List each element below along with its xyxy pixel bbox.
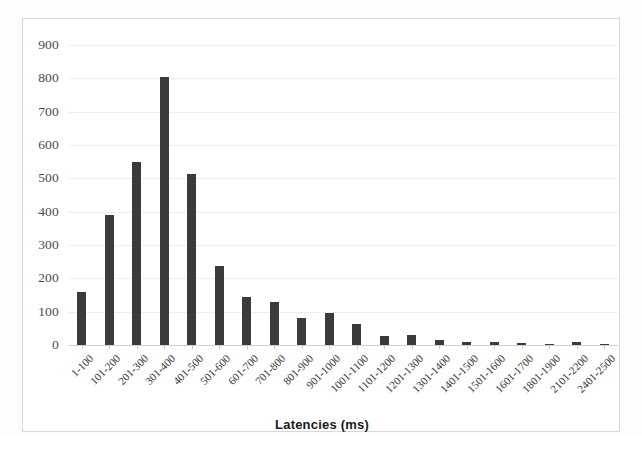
x-axis-tick-mark <box>577 345 578 349</box>
bar <box>380 336 389 345</box>
x-axis-tick-mark <box>164 345 165 349</box>
x-axis-tick-mark <box>137 345 138 349</box>
x-axis-tick-mark <box>384 345 385 349</box>
x-axis-tick-mark <box>82 345 83 349</box>
bar <box>160 77 169 345</box>
bar <box>242 297 251 345</box>
x-axis-title: Latencies (ms) <box>23 417 621 432</box>
bars-layer <box>68 45 618 345</box>
bar <box>297 318 306 345</box>
plot-area: 0100200300400500600700800900 1-100101-20… <box>68 45 618 345</box>
x-axis-tick-mark <box>439 345 440 349</box>
x-axis-tick-mark <box>247 345 248 349</box>
chart-figure: 0100200300400500600700800900 1-100101-20… <box>0 0 642 468</box>
y-axis-tick-label: 500 <box>38 170 59 186</box>
y-axis-tick-label: 300 <box>38 237 59 253</box>
bar <box>352 324 361 345</box>
x-axis-tick-mark <box>329 345 330 349</box>
x-axis-tick-mark <box>109 345 110 349</box>
x-axis-tick-mark <box>357 345 358 349</box>
x-axis-tick-mark <box>522 345 523 349</box>
y-axis-tick-label: 900 <box>38 37 59 53</box>
bar <box>132 162 141 345</box>
bar <box>270 302 279 345</box>
gridline <box>68 345 618 346</box>
y-axis-tick-label: 100 <box>38 304 59 320</box>
x-axis-tick-mark <box>604 345 605 349</box>
chart-plot-frame: 0100200300400500600700800900 1-100101-20… <box>22 18 620 432</box>
bar <box>77 292 86 345</box>
x-axis-tick-mark <box>494 345 495 349</box>
x-axis-tick-mark <box>219 345 220 349</box>
y-axis-tick-label: 200 <box>38 270 59 286</box>
x-axis-tick-mark <box>549 345 550 349</box>
x-axis-tick-mark <box>467 345 468 349</box>
x-axis-tick-mark <box>302 345 303 349</box>
y-axis-tick-label: 0 <box>52 337 59 353</box>
x-axis-tick-mark <box>192 345 193 349</box>
x-axis-tick-mark <box>274 345 275 349</box>
bar <box>215 266 224 345</box>
bar <box>325 313 334 345</box>
bar <box>187 174 196 345</box>
bar <box>407 335 416 345</box>
y-axis-tick-label: 600 <box>38 137 59 153</box>
x-axis-tick-mark <box>412 345 413 349</box>
y-axis-tick-label: 800 <box>38 70 59 86</box>
y-axis-tick-label: 700 <box>38 104 59 120</box>
page-bottom-margin <box>0 434 642 468</box>
bar <box>105 215 114 345</box>
y-axis-tick-label: 400 <box>38 204 59 220</box>
